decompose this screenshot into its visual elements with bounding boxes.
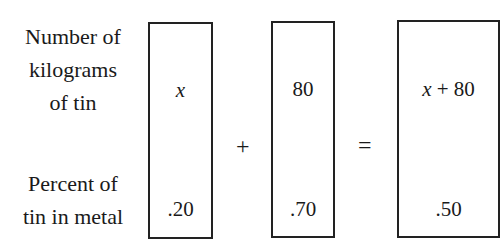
plus-operator: +: [236, 133, 250, 160]
box-first-metal: x .20: [148, 22, 213, 239]
row-label-percent: Percent of tin in metal: [0, 167, 148, 233]
percent-value: .50: [399, 197, 498, 222]
amount-value: x: [150, 78, 211, 103]
label-line: tin in metal: [0, 200, 148, 233]
amount-number: 80: [454, 77, 475, 101]
amount-value: 80: [273, 77, 333, 102]
label-line: of tin: [0, 86, 148, 119]
percent-value: .70: [273, 197, 333, 222]
box-second-metal: 80 .70: [271, 21, 335, 238]
amount-operator: +: [431, 77, 453, 101]
label-line: Number of: [0, 20, 148, 53]
amount-value: x + 80: [399, 77, 498, 102]
label-line: Percent of: [0, 167, 148, 200]
label-line: kilograms: [0, 53, 148, 86]
percent-value: .20: [150, 197, 211, 222]
row-label-kilograms: Number of kilograms of tin: [0, 20, 148, 119]
box-mixture: x + 80 .50: [397, 20, 500, 238]
equals-operator: =: [358, 132, 372, 159]
